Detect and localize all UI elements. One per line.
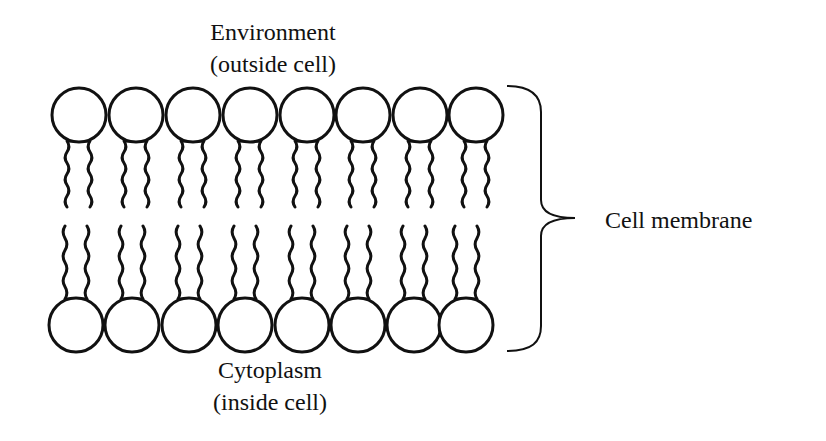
fatty-acid-tail — [423, 226, 427, 299]
fatty-acid-tail — [367, 226, 371, 299]
phospholipid-bottom — [331, 226, 385, 352]
phospholipid-bottom — [218, 226, 272, 352]
fatty-acid-tail — [65, 141, 69, 207]
cell-membrane-label: Cell membrane — [605, 207, 752, 233]
fatty-acid-tail — [349, 141, 353, 207]
phosphate-head — [336, 88, 390, 142]
fatty-acid-tail — [85, 226, 89, 299]
phospholipid-top — [449, 88, 503, 207]
phospholipid-bottom — [387, 226, 441, 352]
phosphate-head — [280, 88, 334, 142]
fatty-acid-tail — [63, 226, 67, 299]
fatty-acid-tail — [406, 141, 410, 207]
fatty-acid-tail — [429, 141, 433, 207]
phospholipid-bottom — [105, 226, 159, 352]
phospholipid-top — [166, 88, 220, 207]
inside-cell-label: (inside cell) — [213, 389, 327, 415]
fatty-acid-tail — [145, 141, 149, 207]
curly-brace — [507, 86, 575, 351]
outside-cell-label: (outside cell) — [210, 51, 336, 77]
fatty-acid-tail — [198, 226, 202, 299]
fatty-acid-tail — [316, 141, 320, 207]
fatty-acid-tail — [453, 226, 457, 299]
fatty-acid-tail — [401, 226, 405, 299]
phospholipid-top — [52, 88, 106, 207]
phosphate-head — [449, 88, 503, 142]
phospholipid-top — [393, 88, 447, 207]
fatty-acid-tail — [122, 141, 126, 207]
fatty-acid-tail — [475, 226, 479, 299]
fatty-acid-tail — [259, 141, 263, 207]
fatty-acid-tail — [254, 226, 258, 299]
phospholipid-bottom — [49, 226, 103, 352]
fatty-acid-tail — [372, 141, 376, 207]
fatty-acid-tail — [345, 226, 349, 299]
fatty-acid-tail — [179, 141, 183, 207]
fatty-acid-tail — [462, 141, 466, 207]
phospholipid-bottom — [162, 226, 216, 352]
phosphate-head — [331, 298, 385, 352]
phospholipid-top — [223, 88, 277, 207]
fatty-acid-tail — [88, 141, 92, 207]
phosphate-head — [387, 298, 441, 352]
environment-label: Environment — [210, 19, 336, 45]
phosphate-head — [439, 298, 493, 352]
phosphate-head — [52, 88, 106, 142]
phospholipid-top — [336, 88, 390, 207]
phosphate-head — [105, 298, 159, 352]
phosphate-head — [166, 88, 220, 142]
fatty-acid-tail — [232, 226, 236, 299]
phosphate-head — [109, 88, 163, 142]
phospholipid-top — [109, 88, 163, 207]
phosphate-head — [49, 298, 103, 352]
phosphate-head — [393, 88, 447, 142]
phosphate-head — [218, 298, 272, 352]
phospholipid-top — [280, 88, 334, 207]
fatty-acid-tail — [236, 141, 240, 207]
phosphate-head — [162, 298, 216, 352]
fatty-acid-tail — [176, 226, 180, 299]
fatty-acid-tail — [141, 226, 145, 299]
fatty-acid-tail — [293, 141, 297, 207]
cytoplasm-label: Cytoplasm — [218, 357, 322, 383]
fatty-acid-tail — [119, 226, 123, 299]
phospholipid-bottom — [439, 226, 493, 352]
phosphate-head — [275, 298, 329, 352]
fatty-acid-tail — [485, 141, 489, 207]
fatty-acid-tail — [289, 226, 293, 299]
fatty-acid-tail — [202, 141, 206, 207]
fatty-acid-tail — [311, 226, 315, 299]
phospholipid-bottom — [275, 226, 329, 352]
membrane-diagram: Environment (outside cell) Cytoplasm (in… — [0, 0, 826, 441]
phosphate-head — [223, 88, 277, 142]
phospholipid-bilayer — [49, 88, 503, 352]
